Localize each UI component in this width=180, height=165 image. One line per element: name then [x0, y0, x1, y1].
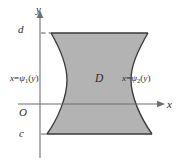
origin-label: O	[19, 107, 27, 118]
left-curve-eq-close-paren: )	[35, 73, 38, 83]
lower-bound-label-c: c	[19, 128, 24, 139]
right-curve-equation: x=ψ2(y)	[122, 74, 150, 84]
x-axis-label: x	[167, 99, 172, 110]
x-axis-arrowhead	[157, 101, 165, 108]
math-figure-region-d: y x d c O D x=ψ1(y) x=ψ2(y)	[0, 0, 180, 165]
upper-bound-label-d: d	[18, 24, 24, 35]
right-curve-eq-close-paren: )	[147, 73, 150, 83]
y-axis-label: y	[36, 4, 41, 15]
left-curve-equation: x=ψ1(y)	[10, 74, 38, 84]
region-label-d: D	[95, 73, 103, 85]
